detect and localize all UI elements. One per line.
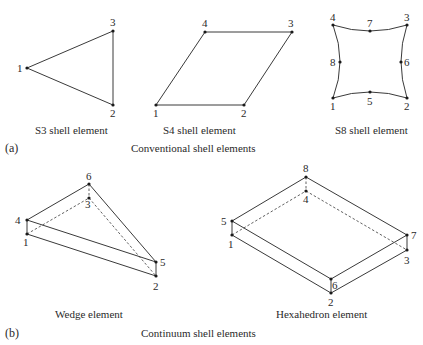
s4-node-1-label: 1 bbox=[153, 107, 159, 119]
s8-node-7 bbox=[368, 29, 371, 32]
s3-caption: S3 shell element bbox=[35, 124, 108, 136]
wedge-node-4-label: 4 bbox=[15, 214, 21, 226]
wedge-edge-4-6 bbox=[27, 184, 89, 220]
s8-node-4-label: 4 bbox=[330, 11, 336, 23]
s4-node-3-label: 3 bbox=[288, 17, 294, 29]
hexa-hidden-edge-1-4 bbox=[232, 191, 306, 235]
hexa-node-2-label: 2 bbox=[328, 296, 334, 308]
shell-elements-figure: 1 2 3 S3 shell element 1 2 3 4 S4 shell … bbox=[0, 0, 423, 345]
wedge-edge-4-5 bbox=[27, 220, 156, 262]
s3-node-1 bbox=[25, 66, 28, 69]
wedge-node-5-label: 5 bbox=[160, 256, 166, 268]
hexa-node-7-label: 7 bbox=[411, 229, 417, 241]
wedge-node-2 bbox=[154, 274, 157, 277]
hexa-node-7 bbox=[405, 233, 408, 236]
hexa-edge-1-2 bbox=[232, 235, 331, 293]
hexahedron-element: 1 2 3 4 5 6 7 8 Hexahedron element bbox=[221, 162, 417, 320]
panel-a: 1 2 3 S3 shell element 1 2 3 4 S4 shell … bbox=[5, 11, 410, 155]
s3-node-2-label: 2 bbox=[110, 107, 116, 119]
hexa-node-3 bbox=[405, 248, 408, 251]
s3-node-3 bbox=[111, 29, 114, 32]
s8-node-2-label: 2 bbox=[404, 100, 410, 112]
wedge-element: 1 2 3 4 5 6 Wedge element bbox=[15, 170, 166, 320]
s8-node-1-label: 1 bbox=[330, 100, 336, 112]
s3-outline bbox=[27, 31, 113, 105]
s8-caption: S8 shell element bbox=[335, 124, 408, 136]
s8-node-6-label: 6 bbox=[404, 56, 410, 68]
s8-node-6 bbox=[399, 60, 402, 63]
wedge-edge-1-2 bbox=[27, 234, 156, 276]
s3-shell-element: 1 2 3 S3 shell element bbox=[17, 16, 116, 136]
hexa-node-3-label: 3 bbox=[404, 254, 410, 266]
s4-node-2-label: 2 bbox=[241, 107, 247, 119]
wedge-hidden-edge-1-3 bbox=[27, 198, 89, 234]
hexa-node-5 bbox=[230, 219, 233, 222]
s8-node-8-label: 8 bbox=[330, 56, 336, 68]
hexa-node-2 bbox=[329, 291, 332, 294]
wedge-node-5 bbox=[154, 260, 157, 263]
s3-node-1-label: 1 bbox=[17, 62, 23, 74]
hexa-node-5-label: 5 bbox=[221, 215, 227, 227]
wedge-node-2-label: 2 bbox=[153, 280, 159, 292]
s8-node-5 bbox=[368, 90, 371, 93]
s3-node-3-label: 3 bbox=[110, 16, 116, 28]
s4-node-3 bbox=[290, 30, 293, 33]
wedge-node-1-label: 1 bbox=[23, 236, 29, 248]
s4-outline bbox=[156, 32, 292, 105]
s8-node-4 bbox=[331, 23, 334, 26]
hexa-node-1 bbox=[230, 233, 233, 236]
s8-node-3-label: 3 bbox=[404, 11, 410, 23]
panel-b: 1 2 3 4 5 6 Wedge element bbox=[5, 162, 417, 340]
wedge-caption: Wedge element bbox=[55, 308, 123, 320]
hexa-node-4-label: 4 bbox=[303, 193, 309, 205]
wedge-node-6 bbox=[87, 182, 90, 185]
wedge-edge-6-5 bbox=[89, 184, 156, 262]
s8-node-8 bbox=[338, 60, 341, 63]
s4-node-4 bbox=[203, 30, 206, 33]
panel-a-title: Conventional shell elements bbox=[131, 142, 256, 154]
s8-node-7-label: 7 bbox=[367, 17, 373, 29]
hexa-top-face bbox=[232, 177, 407, 279]
s8-node-3 bbox=[405, 23, 408, 26]
s8-node-5-label: 5 bbox=[367, 95, 373, 107]
hexa-node-6-label: 6 bbox=[332, 279, 338, 291]
hexa-node-1-label: 1 bbox=[228, 238, 234, 250]
panel-a-label: (a) bbox=[5, 141, 18, 155]
panel-b-label: (b) bbox=[5, 326, 19, 340]
panel-b-title: Continuum shell elements bbox=[141, 327, 256, 339]
s4-node-4-label: 4 bbox=[202, 17, 208, 29]
hexa-caption: Hexahedron element bbox=[276, 308, 367, 320]
s4-shell-element: 1 2 3 4 S4 shell element bbox=[153, 17, 294, 136]
hexa-hidden-edge-4-3 bbox=[306, 191, 407, 250]
wedge-hidden-edge-3-2 bbox=[89, 198, 156, 276]
s4-caption: S4 shell element bbox=[163, 124, 236, 136]
s8-shell-element: 1 2 3 4 5 6 7 8 S8 shell element bbox=[330, 11, 410, 136]
hexa-node-8 bbox=[304, 175, 307, 178]
wedge-node-3-label: 3 bbox=[85, 198, 91, 210]
wedge-node-4 bbox=[25, 218, 28, 221]
hexa-node-8-label: 8 bbox=[303, 162, 309, 174]
wedge-node-6-label: 6 bbox=[86, 170, 92, 182]
